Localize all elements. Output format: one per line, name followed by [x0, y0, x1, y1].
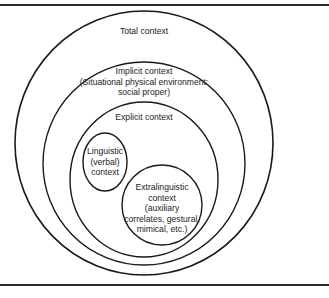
- explicit-context-label: Explicit context: [104, 112, 184, 123]
- context-diagram: [0, 0, 329, 298]
- implicit-context-label: Implicit context (Situational physical e…: [64, 66, 224, 98]
- extralinguistic-line-4: correlates, gestural,: [120, 214, 204, 225]
- extralinguistic-line-2: context: [120, 193, 204, 204]
- implicit-context-title: Implicit context: [64, 66, 224, 77]
- implicit-context-desc-2: social proper): [64, 87, 224, 98]
- linguistic-line-3: context: [83, 167, 127, 178]
- total-context-label: Total context: [94, 26, 194, 37]
- extralinguistic-line-3: (auxiliary: [120, 203, 204, 214]
- linguistic-context-label: Linguistic (verbal) context: [83, 146, 127, 178]
- extralinguistic-line-5: mimical, etc.): [120, 224, 204, 235]
- linguistic-line-1: Linguistic: [83, 146, 127, 157]
- extralinguistic-context-label: Extralinguistic context (auxiliary corre…: [120, 182, 204, 235]
- linguistic-line-2: (verbal): [83, 157, 127, 168]
- implicit-context-desc-1: (Situational physical environment:: [64, 77, 224, 88]
- extralinguistic-line-1: Extralinguistic: [120, 182, 204, 193]
